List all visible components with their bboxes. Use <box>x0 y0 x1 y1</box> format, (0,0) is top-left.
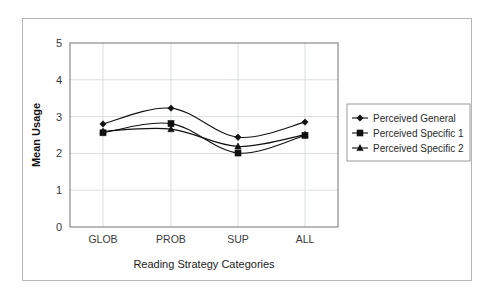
series-line <box>103 128 305 146</box>
chart-page: 5 4 3 2 1 0 GLOB PROB SUP ALL Reading St… <box>0 0 492 299</box>
x-axis-title: Reading Strategy Categories <box>133 258 275 270</box>
series-layer <box>100 105 308 156</box>
y-tick-5: 5 <box>56 37 62 49</box>
square-marker-icon <box>357 130 363 136</box>
data-point <box>235 150 241 156</box>
data-point <box>100 121 106 127</box>
legend-label-2: Perceived Specific 2 <box>373 143 464 154</box>
series-line <box>103 108 305 138</box>
y-tick-3: 3 <box>56 111 62 123</box>
data-point <box>168 105 174 111</box>
data-point <box>302 119 308 125</box>
chart-legend: Perceived General Perceived Specific 1 P… <box>347 104 470 161</box>
y-axis-tick-labels: 5 4 3 2 1 0 <box>56 37 62 233</box>
x-axis-tick-labels: GLOB PROB SUP ALL <box>88 233 314 245</box>
x-tick-sup: SUP <box>227 233 249 245</box>
y-axis-title: Mean Usage <box>30 103 42 167</box>
x-tick-glob: GLOB <box>88 233 117 245</box>
y-tick-0: 0 <box>56 221 62 233</box>
y-tick-4: 4 <box>56 74 62 86</box>
legend-marker-glyph <box>357 130 363 136</box>
plot-area-border <box>70 43 338 227</box>
line-chart: 5 4 3 2 1 0 GLOB PROB SUP ALL Reading St… <box>0 0 492 299</box>
x-tick-prob: PROB <box>156 233 186 245</box>
y-tick-1: 1 <box>56 184 62 196</box>
y-tick-2: 2 <box>56 147 62 159</box>
series-perceived-general <box>100 105 308 140</box>
data-point <box>235 134 241 140</box>
legend-label-0: Perceived General <box>373 113 456 124</box>
gridlines <box>70 43 338 227</box>
x-tick-all: ALL <box>296 233 315 245</box>
legend-label-1: Perceived Specific 1 <box>373 128 464 139</box>
